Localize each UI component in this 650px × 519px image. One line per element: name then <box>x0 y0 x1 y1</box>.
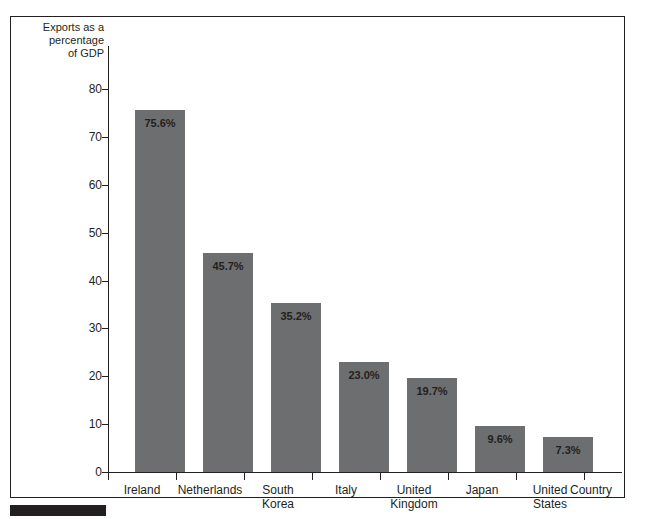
category-label-line: Italy <box>312 483 380 497</box>
bar-south-korea[interactable]: 35.2% <box>271 303 321 472</box>
y-axis-tick-mark <box>102 376 109 377</box>
x-axis-tick-mark <box>312 473 313 480</box>
bar-value-label: 9.6% <box>475 433 525 445</box>
y-axis-tick-label: 10 <box>66 418 102 430</box>
x-axis-category-label-italy: Italy <box>312 483 380 497</box>
bar-united-kingdom[interactable]: 19.7% <box>407 378 457 472</box>
y-axis-tick-mark <box>102 233 109 234</box>
x-axis-tick-mark <box>516 473 517 480</box>
x-axis-category-label-japan: Japan <box>448 483 516 497</box>
category-label-line: South <box>244 483 312 497</box>
y-axis-tick-mark <box>102 328 109 329</box>
bar-ireland[interactable]: 75.6% <box>135 110 185 472</box>
bar-japan[interactable]: 9.6% <box>475 426 525 472</box>
bar-value-label: 45.7% <box>203 260 253 272</box>
y-axis-tick-label: 50 <box>66 227 102 239</box>
y-axis-tick-label: 20 <box>66 370 102 382</box>
category-label-line: United <box>380 483 448 497</box>
bottom-black-marker <box>10 505 106 516</box>
y-axis-tick-label: 60 <box>66 179 102 191</box>
chart-figure-frame: Exports as a percentage of GDP 010203040… <box>10 16 625 498</box>
bar-value-label: 35.2% <box>271 310 321 322</box>
x-axis-line <box>108 472 622 473</box>
category-label-line: Ireland <box>108 483 176 497</box>
category-label-line: States <box>516 497 584 511</box>
y-axis-tick-mark <box>102 137 109 138</box>
x-axis-tick-mark <box>108 473 109 480</box>
y-axis-tick-label: 30 <box>66 322 102 334</box>
bar-italy[interactable]: 23.0% <box>339 362 389 472</box>
x-axis-tick-mark <box>176 473 177 480</box>
bar-netherlands[interactable]: 45.7% <box>203 253 253 472</box>
bar-value-label: 75.6% <box>135 117 185 129</box>
y-axis-tick-label: 70 <box>66 131 102 143</box>
x-axis-tick-mark <box>584 473 585 480</box>
y-axis-tick-mark <box>102 89 109 90</box>
y-axis-line <box>108 46 109 473</box>
category-label-line: Japan <box>448 483 516 497</box>
x-axis-category-label-ireland: Ireland <box>108 483 176 497</box>
x-axis-title: Country <box>570 483 612 497</box>
bar-value-label: 23.0% <box>339 369 389 381</box>
bar-value-label: 19.7% <box>407 385 457 397</box>
category-label-line: Korea <box>244 497 312 511</box>
bar-value-label: 7.3% <box>543 444 593 456</box>
y-axis-title: Exports as a percentage of GDP <box>19 21 104 60</box>
x-axis-category-label-netherlands: Netherlands <box>176 483 244 497</box>
category-label-line: Netherlands <box>176 483 244 497</box>
y-axis-title-line-1: Exports as a <box>19 21 104 34</box>
y-axis-tick-label: 0 <box>66 466 102 478</box>
bar-united-states[interactable]: 7.3% <box>543 437 593 472</box>
x-axis-tick-mark <box>244 473 245 480</box>
x-axis-tick-mark <box>380 473 381 480</box>
x-axis-tick-mark <box>448 473 449 480</box>
y-axis-title-line-3: of GDP <box>19 47 104 60</box>
y-axis-tick-mark <box>102 424 109 425</box>
y-axis-tick-label: 40 <box>66 275 102 287</box>
y-axis-title-line-2: percentage <box>19 34 104 47</box>
y-axis-tick-label: 80 <box>66 83 102 95</box>
y-axis-tick-mark <box>102 185 109 186</box>
y-axis-tick-mark <box>102 281 109 282</box>
x-axis-category-label-south-korea: SouthKorea <box>244 483 312 511</box>
category-label-line: Kingdom <box>380 497 448 511</box>
x-axis-category-label-united-kingdom: UnitedKingdom <box>380 483 448 511</box>
plot-area: Exports as a percentage of GDP 010203040… <box>11 17 626 499</box>
